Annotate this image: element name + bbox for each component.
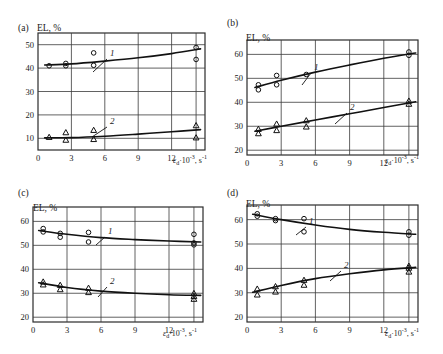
panel-a-x-axis-label: εd·10-3, s-1 <box>173 154 207 166</box>
svg-text:40: 40 <box>235 97 244 107</box>
svg-text:2: 2 <box>110 116 115 126</box>
svg-text:0: 0 <box>36 153 40 163</box>
svg-text:6: 6 <box>313 325 317 335</box>
panel-a-plot: 102030405003691212 <box>0 0 221 177</box>
svg-text:0: 0 <box>31 325 35 335</box>
svg-text:9: 9 <box>347 325 351 335</box>
svg-text:3: 3 <box>279 158 283 168</box>
svg-text:30: 30 <box>235 121 244 131</box>
svg-text:1: 1 <box>314 62 319 72</box>
svg-text:60: 60 <box>235 49 244 59</box>
svg-text:9: 9 <box>347 158 351 168</box>
svg-text:30: 30 <box>26 87 35 97</box>
svg-text:30: 30 <box>235 288 244 298</box>
svg-text:20: 20 <box>21 312 30 322</box>
panel-d-x-axis-label: εd·10-3, s-1 <box>385 327 419 339</box>
svg-text:50: 50 <box>235 73 244 83</box>
svg-text:3: 3 <box>69 153 73 163</box>
svg-text:3: 3 <box>65 325 69 335</box>
svg-text:40: 40 <box>21 264 30 274</box>
svg-text:40: 40 <box>26 63 35 73</box>
figure-four-panel-chart: (a) EL, % 102030405003691212 εd·10-3, s-… <box>0 0 443 354</box>
svg-text:60: 60 <box>21 216 30 226</box>
svg-text:0: 0 <box>245 158 249 168</box>
svg-text:9: 9 <box>133 325 137 335</box>
svg-text:30: 30 <box>21 288 30 298</box>
svg-text:10: 10 <box>26 133 35 143</box>
svg-text:9: 9 <box>136 153 140 163</box>
panel-c: (c) EL, % 203040506003691212 εd·10-3, s-… <box>0 177 221 354</box>
svg-text:6: 6 <box>99 325 103 335</box>
svg-text:20: 20 <box>235 312 244 322</box>
svg-text:20: 20 <box>26 110 35 120</box>
svg-text:2: 2 <box>344 260 349 270</box>
svg-text:6: 6 <box>313 158 317 168</box>
panel-a: (a) EL, % 102030405003691212 εd·10-3, s-… <box>0 0 221 177</box>
svg-text:1: 1 <box>108 226 113 236</box>
svg-text:0: 0 <box>245 325 249 335</box>
svg-text:3: 3 <box>279 325 283 335</box>
panel-c-x-axis-label: εd·10-3, s-1 <box>163 327 197 339</box>
svg-text:2: 2 <box>110 276 115 286</box>
panel-d: (d) EL, % 203040506003691212 εd·10-3, s-… <box>222 177 443 354</box>
svg-text:50: 50 <box>26 40 35 50</box>
panel-b: (b) EL, % 203040506003691212 εd·10-3, s-… <box>222 0 443 177</box>
svg-text:20: 20 <box>235 145 244 155</box>
svg-text:50: 50 <box>21 240 30 250</box>
panel-b-x-axis-label: εd·10-3, s-1 <box>385 154 419 166</box>
svg-text:40: 40 <box>235 263 244 273</box>
panel-b-plot: 203040506003691212 <box>222 0 443 177</box>
svg-text:2: 2 <box>350 102 355 112</box>
svg-text:50: 50 <box>235 239 244 249</box>
svg-text:1: 1 <box>110 48 115 58</box>
svg-text:6: 6 <box>103 153 107 163</box>
svg-text:1: 1 <box>309 216 314 226</box>
svg-text:60: 60 <box>235 215 244 225</box>
